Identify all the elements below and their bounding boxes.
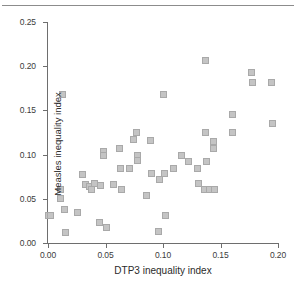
x-axis-title: DTP3 inequality index [48,265,278,276]
y-tick-label: 0.15 [20,105,36,115]
x-tick [106,243,107,248]
data-point [211,186,218,193]
data-point [79,171,86,178]
data-point [97,182,104,189]
data-point [203,158,210,165]
chart-title [80,0,220,5]
data-point [170,165,177,172]
data-point [130,136,137,143]
x-tick [221,243,222,248]
data-point [210,145,217,152]
y-axis-line [47,22,48,244]
data-point [194,165,201,172]
data-point [147,137,154,144]
y-tick-label: 0.10 [20,150,36,160]
data-point [202,57,209,64]
y-tick: 0.10 [43,155,48,156]
data-point [61,206,68,213]
data-point [185,158,192,165]
y-tick-label: 0.20 [20,61,36,71]
data-point [62,229,69,236]
data-point [110,181,117,188]
data-point [116,145,123,152]
x-tick-label: 0.05 [97,250,113,260]
plot-area: 0.000.050.100.150.200.25 0.000.050.100.1… [48,22,278,243]
x-tick-label: 0.10 [155,250,171,260]
data-point [74,209,81,216]
data-point [155,228,162,235]
data-point [229,129,236,136]
x-tick [48,243,49,248]
data-point [117,165,124,172]
data-point [103,224,110,231]
data-point [148,170,155,177]
data-point [143,192,150,199]
data-point [118,186,125,193]
data-point [161,170,168,177]
data-point [57,195,64,202]
x-tick [163,243,164,248]
y-tick-label: 0.05 [20,194,36,204]
data-point [133,129,140,136]
y-tick: 0.05 [43,199,48,200]
x-tick [278,243,279,248]
y-tick: 0.15 [43,110,48,111]
data-point [126,165,133,172]
y-tick-label: 0.25 [20,17,36,27]
data-point [100,152,107,159]
data-point [47,212,54,219]
data-point [202,129,209,136]
data-point [160,91,167,98]
y-tick: 0.25 [43,22,48,23]
top-divider-rule [2,5,294,6]
data-point [268,79,275,86]
x-tick-label: 0.15 [212,250,228,260]
x-tick-label: 0.20 [270,250,286,260]
data-point [88,186,95,193]
y-tick-label: 0.00 [20,238,36,248]
data-point [162,212,169,219]
data-point [134,157,141,164]
y-axis-title: Measles inequality index [52,92,63,196]
scatter-plot-figure: 0.000.050.100.150.200.25 0.000.050.100.1… [0,0,296,288]
x-tick-label: 0.00 [40,250,56,260]
y-tick: 0.20 [43,66,48,67]
data-point [269,120,276,127]
data-point [229,111,236,118]
data-point [156,176,163,183]
data-point [210,138,217,145]
data-point [249,79,256,86]
data-point [248,69,255,76]
